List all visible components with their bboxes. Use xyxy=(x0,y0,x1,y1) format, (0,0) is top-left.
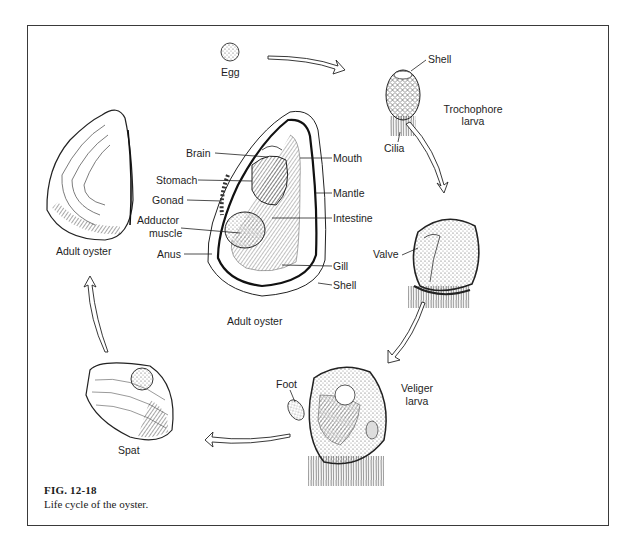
trochophore-illustration xyxy=(386,60,426,142)
figure-number: FIG. 12-18 xyxy=(44,484,97,496)
mantle-label: Mantle xyxy=(333,187,365,199)
adult-external-label: Adult oyster xyxy=(56,245,111,257)
shell-label: Shell xyxy=(333,279,356,291)
anus-label: Anus xyxy=(157,248,181,260)
spat-label: Spat xyxy=(118,444,140,456)
arrow-spat-to-adult xyxy=(84,276,108,352)
trochophore-label-line2: larva xyxy=(438,115,508,127)
valve-stage-illustration xyxy=(402,219,479,308)
trochophore-cilia-label: Cilia xyxy=(384,142,404,154)
intestine-label: Intestine xyxy=(333,212,373,224)
veliger-label-line2: larva xyxy=(392,395,442,407)
veliger-label-line1: Veliger xyxy=(392,382,442,394)
brain-label: Brain xyxy=(186,147,211,159)
veliger-illustration xyxy=(284,367,386,486)
life-cycle-illustration xyxy=(0,0,635,550)
adult-oyster-external-illustration xyxy=(47,110,133,240)
egg-illustration xyxy=(221,43,239,61)
figure-caption: Life cycle of the oyster. xyxy=(44,498,148,510)
arrow-egg-to-trochophore xyxy=(268,56,345,74)
gonad-label: Gonad xyxy=(152,194,184,206)
mouth-label: Mouth xyxy=(333,152,362,164)
spat-illustration xyxy=(86,363,173,440)
arrow-valve-to-veliger xyxy=(388,302,425,363)
egg-label: Egg xyxy=(221,66,240,78)
adductor-label-line2: muscle xyxy=(149,227,182,239)
trochophore-label-line1: Trochophore xyxy=(438,103,508,115)
gill-label: Gill xyxy=(333,260,348,272)
trochophore-shell-label: Shell xyxy=(428,53,451,65)
adult-internal-label: Adult oyster xyxy=(227,315,282,327)
arrow-veliger-to-spat xyxy=(205,432,290,447)
adult-oyster-internal-illustration xyxy=(208,111,326,296)
valve-label: Valve xyxy=(373,248,399,260)
veliger-foot-label: Foot xyxy=(276,378,297,390)
adductor-label-line1: Adductor xyxy=(137,214,179,226)
stomach-label: Stomach xyxy=(156,174,197,186)
